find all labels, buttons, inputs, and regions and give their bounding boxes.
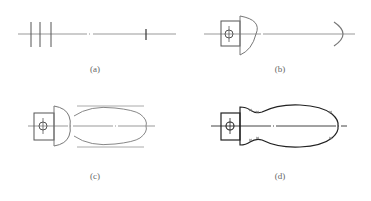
head-arc	[240, 16, 257, 55]
panel-b	[204, 16, 355, 55]
panel-label-a: (a)	[75, 64, 115, 74]
panel-c	[28, 106, 155, 147]
panel-a	[18, 22, 176, 47]
panel-label-b: (b)	[260, 64, 300, 74]
panel-d	[211, 105, 347, 147]
panel-label-c: (c)	[75, 171, 115, 181]
panel-label-d: (d)	[260, 171, 300, 181]
handle-drawing-diagram	[0, 0, 371, 201]
tangent-point-marks	[249, 109, 332, 141]
